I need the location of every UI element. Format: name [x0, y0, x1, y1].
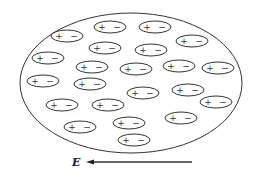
positive-charge-icon: + — [124, 64, 132, 74]
positive-charge-icon: + — [143, 22, 151, 32]
negative-charge-icon: − — [219, 97, 227, 107]
negative-charge-icon: − — [195, 36, 203, 46]
negative-charge-icon: − — [108, 43, 116, 53]
negative-charge-icon: − — [146, 88, 154, 98]
dipole: +− — [92, 99, 124, 111]
dipole: +− — [32, 52, 64, 64]
dipole: +− — [64, 121, 96, 133]
dielectric-diagram: +−+−+−+−+−+−+−+−+−+−+−+−+−+−+−+−+−+−+−+−… — [0, 0, 256, 177]
positive-charge-icon: + — [36, 53, 44, 63]
positive-charge-icon: + — [206, 63, 214, 73]
positive-charge-icon: + — [93, 43, 101, 53]
positive-charge-icon: + — [98, 22, 106, 32]
dipole: +− — [176, 35, 208, 47]
negative-charge-icon: − — [158, 22, 166, 32]
dipole: +− — [120, 63, 152, 75]
dipole: +− — [118, 134, 150, 146]
electric-field-arrow: E — [71, 156, 192, 169]
negative-charge-icon: − — [51, 53, 59, 63]
dipole: +− — [163, 60, 195, 72]
dipole: +− — [200, 96, 232, 108]
dipole: +− — [27, 75, 59, 87]
positive-charge-icon: + — [78, 79, 86, 89]
dipole: +− — [94, 21, 126, 33]
positive-charge-icon: + — [131, 88, 139, 98]
dipole: +− — [172, 84, 204, 96]
negative-charge-icon: − — [65, 100, 73, 110]
dipole: +− — [127, 87, 159, 99]
dipole: +− — [202, 62, 234, 74]
negative-charge-icon: − — [95, 62, 103, 72]
positive-charge-icon: + — [122, 135, 130, 145]
negative-charge-icon: − — [113, 22, 121, 32]
negative-charge-icon: − — [70, 31, 78, 41]
positive-charge-icon: + — [68, 122, 76, 132]
positive-charge-icon: + — [55, 31, 63, 41]
dipole: +− — [165, 112, 197, 124]
negative-charge-icon: − — [154, 45, 162, 55]
positive-charge-icon: + — [50, 100, 58, 110]
dipole: +− — [113, 117, 145, 129]
positive-charge-icon: + — [31, 76, 39, 86]
negative-charge-icon: − — [46, 76, 54, 86]
negative-charge-icon: − — [184, 113, 192, 123]
positive-charge-icon: + — [139, 45, 147, 55]
dipole: +− — [89, 42, 121, 54]
dipole: +− — [51, 30, 83, 42]
dipole: +− — [139, 21, 171, 33]
field-label: E — [71, 156, 81, 169]
dipole: +− — [74, 78, 106, 90]
negative-charge-icon: − — [191, 85, 199, 95]
negative-charge-icon: − — [139, 64, 147, 74]
dipole: +− — [76, 61, 108, 73]
positive-charge-icon: + — [204, 97, 212, 107]
negative-charge-icon: − — [83, 122, 91, 132]
arrow-head-icon — [86, 160, 94, 165]
positive-charge-icon: + — [176, 85, 184, 95]
negative-charge-icon: − — [132, 118, 140, 128]
positive-charge-icon: + — [117, 118, 125, 128]
negative-charge-icon: − — [93, 79, 101, 89]
positive-charge-icon: + — [180, 36, 188, 46]
positive-charge-icon: + — [167, 61, 175, 71]
dipole: +− — [135, 44, 167, 56]
positive-charge-icon: + — [80, 62, 88, 72]
negative-charge-icon: − — [111, 100, 119, 110]
negative-charge-icon: − — [221, 63, 229, 73]
dipole-group: +−+−+−+−+−+−+−+−+−+−+−+−+−+−+−+−+−+−+−+−… — [27, 21, 234, 146]
positive-charge-icon: + — [169, 113, 177, 123]
dipole: +− — [46, 99, 78, 111]
positive-charge-icon: + — [96, 100, 104, 110]
negative-charge-icon: − — [182, 61, 190, 71]
negative-charge-icon: − — [137, 135, 145, 145]
